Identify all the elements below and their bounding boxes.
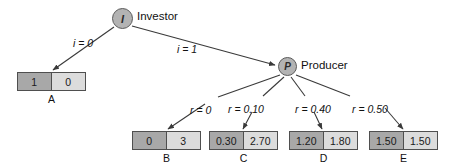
payoff-box-b: 0 3 B — [132, 131, 201, 150]
edge-label-r-040: r = 0.40 — [295, 103, 331, 115]
payoff-box-e: 1.50 1.50 E — [369, 131, 438, 150]
edge-label-r-010: r = 0.10 — [228, 103, 264, 115]
payoff-box-b-name: B — [133, 152, 200, 164]
edge-investor-to-producer — [132, 26, 275, 65]
payoff-b-investor: 0 — [133, 132, 167, 149]
edge-producer-to-d — [291, 77, 305, 96]
payoff-e-producer: 1.50 — [404, 132, 438, 149]
payoff-box-a-name: A — [18, 93, 85, 105]
node-investor-label: Investor — [137, 10, 178, 22]
edge-label-r-0: r = 0 — [190, 104, 211, 116]
payoff-a-investor: 1 — [18, 73, 52, 90]
node-investor[interactable]: I — [112, 8, 133, 29]
payoff-d-producer: 1.80 — [324, 132, 358, 149]
edge-producer-to-e — [296, 75, 350, 96]
payoff-box-c-name: C — [210, 152, 277, 164]
node-producer[interactable]: P — [278, 57, 297, 76]
payoff-box-a: 1 0 A — [17, 72, 86, 91]
payoff-b-producer: 3 — [167, 132, 201, 149]
payoff-c-producer: 2.70 — [244, 132, 278, 149]
payoff-box-e-name: E — [370, 152, 437, 164]
payoff-a-producer: 0 — [52, 73, 86, 90]
payoff-c-investor: 0.30 — [210, 132, 244, 149]
game-tree-diagram: I Investor P Producer i = 0 i = 1 r = 0 … — [0, 0, 451, 167]
payoff-box-c: 0.30 2.70 C — [209, 131, 278, 150]
edge-label-r-050: r = 0.50 — [352, 103, 388, 115]
edge-label-i-0: i = 0 — [73, 37, 93, 49]
edge-label-i-1: i = 1 — [177, 43, 197, 55]
payoff-box-d-name: D — [290, 152, 357, 164]
node-producer-label: Producer — [301, 59, 348, 71]
payoff-box-d: 1.20 1.80 D — [289, 131, 358, 150]
payoff-e-investor: 1.50 — [370, 132, 404, 149]
edge-producer-to-b — [218, 75, 280, 97]
payoff-d-investor: 1.20 — [290, 132, 324, 149]
